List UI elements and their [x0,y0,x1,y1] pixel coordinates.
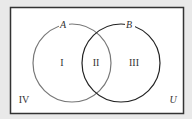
set-b-label: B [126,19,132,30]
region-iii-label: III [129,57,139,68]
venn-diagram: A B I II III IV U [0,0,192,119]
region-i-label: I [60,57,63,68]
region-ii-label: II [93,57,100,68]
set-a-label: A [59,19,67,30]
region-iv-label: IV [19,94,30,105]
universe-label: U [169,94,177,105]
